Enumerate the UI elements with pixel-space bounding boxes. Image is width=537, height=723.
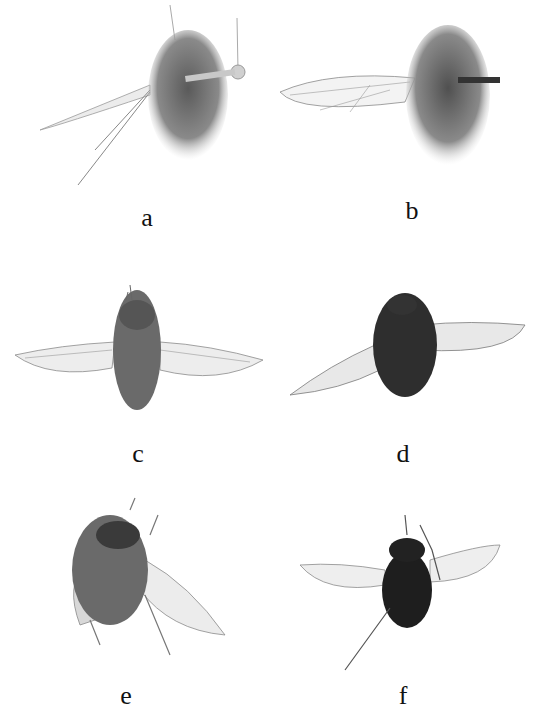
panel-label-c: c xyxy=(132,441,144,467)
specimen-image-a xyxy=(0,0,270,240)
panel-label-f: f xyxy=(399,683,408,709)
specimen-image-b xyxy=(270,0,537,240)
panel-b: b xyxy=(270,0,537,240)
panel-label-a: a xyxy=(141,205,153,231)
panel-label-d: d xyxy=(397,441,410,467)
specimen-image-e xyxy=(0,490,270,723)
panel-label-b: b xyxy=(406,198,419,224)
panel-c: c xyxy=(0,270,270,480)
panel-f: f xyxy=(270,490,537,723)
panel-e: e xyxy=(0,490,270,723)
panel-a: a xyxy=(0,0,270,240)
panel-label-e: e xyxy=(120,683,132,709)
panel-d: d xyxy=(270,270,537,480)
